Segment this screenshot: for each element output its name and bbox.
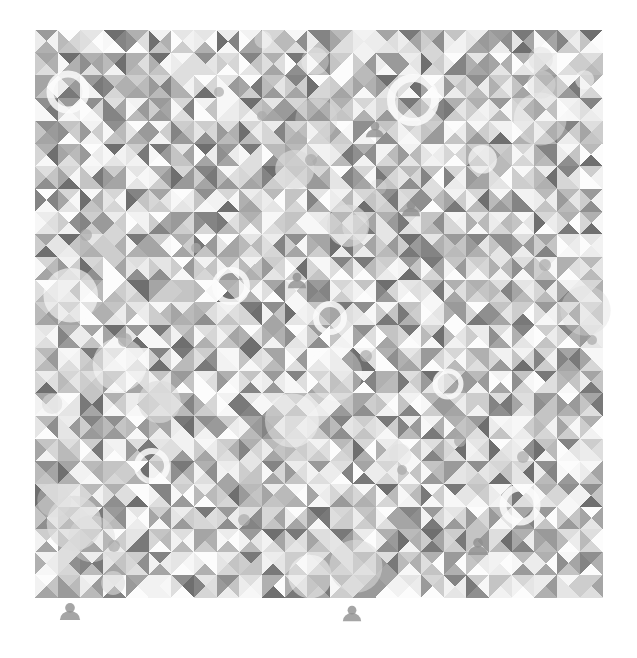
- overlay-circle: [254, 31, 272, 49]
- overlay-circle: [93, 338, 147, 392]
- overlay-circle: [527, 70, 555, 98]
- overlay-circle: [389, 444, 411, 466]
- overlay-dot: [305, 154, 317, 166]
- overlay-circle: [101, 571, 125, 595]
- overlay-circle: [327, 205, 369, 247]
- overlay-dot: [108, 540, 120, 552]
- overlay-circle: [288, 555, 332, 599]
- overlay-dot: [118, 333, 132, 347]
- overlay-circle: [529, 47, 553, 71]
- overlay-dot: [454, 435, 466, 447]
- overlay-circle: [265, 394, 319, 448]
- overlay-dot: [257, 111, 267, 121]
- overlay-dot: [539, 259, 551, 271]
- overlay-dot: [238, 514, 250, 526]
- overlay-circle: [42, 394, 62, 414]
- overlay-dot: [517, 451, 529, 463]
- triangle-mosaic-canvas: [0, 0, 637, 658]
- artboard: [0, 0, 637, 658]
- overlay-dot: [80, 229, 92, 241]
- overlay-circle: [575, 70, 594, 89]
- overlay-dot: [191, 243, 201, 253]
- overlay-circle: [329, 540, 382, 593]
- overlay-dot: [397, 465, 407, 475]
- overlay-dot: [360, 350, 372, 362]
- overlay-circle: [307, 346, 362, 401]
- overlay-circle: [43, 268, 98, 323]
- overlay-circle: [561, 286, 611, 336]
- overlay-circle: [468, 145, 497, 174]
- overlay-circle: [295, 98, 337, 140]
- overlay-circle: [514, 93, 567, 146]
- overlay-dot: [587, 335, 597, 345]
- overlay-circle: [138, 381, 181, 424]
- overlay-circle: [47, 496, 102, 551]
- overlay-circle: [370, 179, 386, 195]
- overlay-dot: [214, 87, 224, 97]
- overlay-circle: [301, 47, 328, 74]
